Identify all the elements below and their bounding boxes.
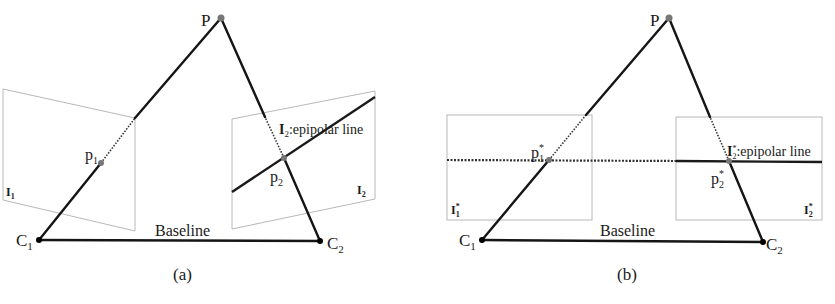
label-P-b: P <box>650 11 659 30</box>
label-p1-star: p*1 <box>531 142 544 164</box>
epipolar-line <box>232 97 375 192</box>
epipolar-line-dotted <box>447 160 676 161</box>
label-rectified-plane-1: I*1 <box>451 202 460 219</box>
ray-p1star-plane-dotted <box>549 115 586 160</box>
caption-a: (a) <box>173 265 192 284</box>
label-epipolar-line: I2:epipolar line <box>279 122 363 139</box>
point-p1 <box>98 160 104 166</box>
epipolar-geometry-figure: P C1 C2 Baseline I1 I2 p1 p2 I2:epipolar… <box>0 0 835 304</box>
ray-c1-p1star <box>482 160 549 240</box>
epipolar-line-solid <box>676 161 822 162</box>
label-P: P <box>201 11 210 30</box>
label-rectified-plane-2: I*2 <box>804 202 813 219</box>
point-P-b <box>666 15 673 22</box>
point-p1-star <box>546 157 552 163</box>
ray-plane-P <box>135 18 221 118</box>
label-p2: p2 <box>270 168 283 188</box>
label-baseline: Baseline <box>155 222 210 239</box>
camera-center-c1 <box>36 237 42 243</box>
label-p1: p1 <box>85 146 98 166</box>
baseline <box>39 240 320 241</box>
ray-c2-p2star <box>729 161 763 242</box>
label-c2-b: C2 <box>766 235 783 256</box>
ray-plane-P-right <box>221 18 265 117</box>
panel-b: P C1 C2 Baseline I*1 I*2 p*1 p*2 I*2:epi… <box>447 11 822 284</box>
label-c1: C1 <box>16 231 33 252</box>
camera-center-c2 <box>317 238 323 244</box>
label-epipolar-line-b: I*2:epipolar line <box>727 144 811 161</box>
image-plane-left <box>3 89 135 231</box>
ray-plane-P-b <box>586 18 669 115</box>
ray-c1-p1 <box>39 163 101 240</box>
point-P <box>218 15 225 22</box>
ray-plane-P-right-b <box>669 18 710 117</box>
label-baseline-b: Baseline <box>600 222 655 239</box>
rectified-plane-left <box>447 115 592 220</box>
label-image-plane-1: I1 <box>6 185 15 201</box>
label-c1-b: C1 <box>459 231 476 252</box>
label-p2-star: p*2 <box>711 168 724 190</box>
ray-c2-p2 <box>284 158 320 241</box>
panel-a: P C1 C2 Baseline I1 I2 p1 p2 I2:epipolar… <box>3 11 375 284</box>
point-p2 <box>281 155 287 161</box>
rectified-plane-right <box>676 117 822 220</box>
label-c2: C2 <box>327 234 344 255</box>
ray-p1-plane-dotted <box>101 118 135 163</box>
label-image-plane-2: I2 <box>357 183 366 199</box>
camera-center-c1-b <box>479 237 485 243</box>
caption-b: (b) <box>617 265 637 284</box>
baseline-b <box>482 240 763 242</box>
